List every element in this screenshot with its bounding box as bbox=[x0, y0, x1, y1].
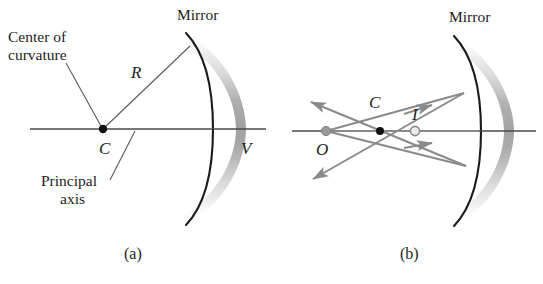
ray-1-incident bbox=[326, 93, 464, 131]
panel-b-group bbox=[292, 36, 536, 226]
principal-axis-label-line1: Principal bbox=[41, 172, 97, 189]
leader-principal-axis bbox=[110, 131, 135, 180]
ray-1-reflected bbox=[313, 93, 464, 179]
caption-a: (a) bbox=[124, 245, 142, 263]
mirror-label-a: Mirror bbox=[177, 6, 218, 23]
principal-axis-label-line2: axis bbox=[41, 190, 104, 207]
center-of-curvature-label-line2: curvature bbox=[8, 46, 67, 63]
center-of-curvature-point-a bbox=[99, 125, 107, 133]
radius-line-a bbox=[103, 46, 190, 129]
object-point-o bbox=[321, 126, 330, 135]
diagram-canvas bbox=[0, 0, 543, 284]
caption-b: (b) bbox=[400, 245, 419, 263]
image-point-i bbox=[410, 126, 419, 135]
center-of-curvature-point-b bbox=[376, 127, 384, 135]
leader-center-of-curvature bbox=[66, 63, 101, 126]
mirror-label-b: Mirror bbox=[449, 8, 490, 25]
radius-label-r: R bbox=[131, 63, 141, 82]
vertex-label-v: V bbox=[241, 139, 251, 158]
optics-figure: Mirror Center of curvature R C V Princip… bbox=[0, 0, 543, 284]
center-point-label-c-a: C bbox=[99, 139, 110, 158]
center-of-curvature-label-line1: Center of bbox=[8, 28, 66, 45]
center-point-label-c-b: C bbox=[369, 93, 380, 112]
object-label-o: O bbox=[316, 140, 328, 159]
image-label-i: I bbox=[412, 105, 418, 124]
